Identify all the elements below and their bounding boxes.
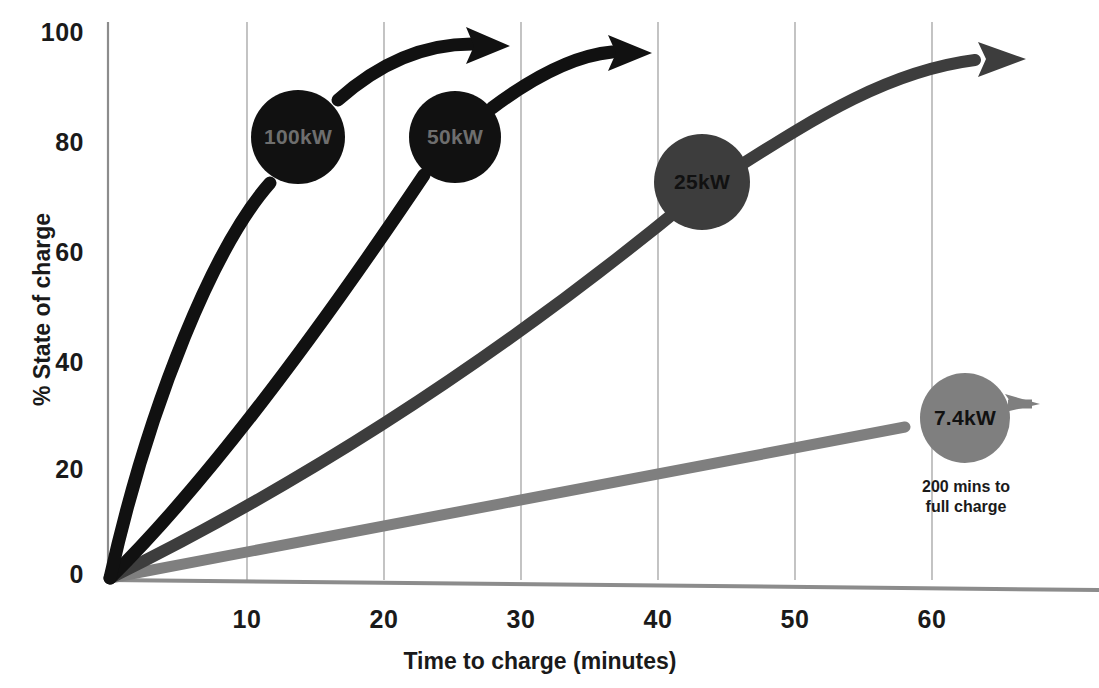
bubble-7-4kw: 7.4kW — [920, 373, 1010, 463]
y-tick-80: 80 — [4, 128, 84, 157]
bubble-25kw-label: 25kW — [674, 170, 730, 194]
x-tick-60: 60 — [892, 605, 972, 634]
annotation-line-2: full charge — [868, 497, 1064, 517]
x-tick-40: 40 — [618, 605, 698, 634]
bubble-7-4kw-label: 7.4kW — [934, 406, 996, 430]
annotation-line-1: 200 mins to — [868, 477, 1064, 497]
y-axis-title: % State of charge — [29, 190, 56, 430]
x-tick-50: 50 — [755, 605, 835, 634]
y-tick-20: 20 — [4, 455, 84, 484]
x-axis-line — [108, 580, 1099, 590]
x-tick-20: 20 — [344, 605, 424, 634]
annotation-200-mins-note: 200 mins to full charge — [868, 477, 1064, 518]
x-axis-title: Time to charge (minutes) — [330, 648, 750, 675]
bubble-100kw: 100kW — [251, 90, 345, 184]
bubble-50kw-label: 50kW — [427, 125, 483, 149]
bubble-50kw: 50kW — [409, 91, 501, 183]
bubble-25kw: 25kW — [654, 134, 750, 230]
x-tick-10: 10 — [207, 605, 287, 634]
bubble-100kw-label: 100kW — [264, 125, 332, 149]
ev-charging-speed-chart: 100 80 60 40 20 0 10 20 30 40 50 60 % St… — [0, 0, 1099, 688]
chart-plot-area — [0, 0, 1099, 688]
y-tick-100: 100 — [4, 18, 84, 47]
y-tick-0: 0 — [4, 560, 84, 589]
x-tick-30: 30 — [481, 605, 561, 634]
